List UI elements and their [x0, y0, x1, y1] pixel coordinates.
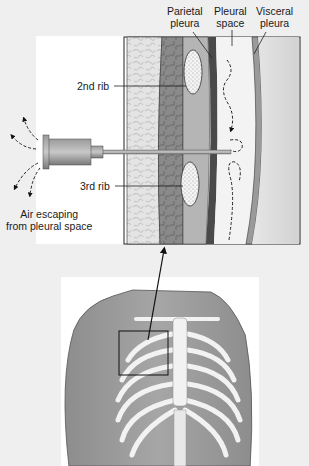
label-second-rib: 2nd rib	[77, 80, 109, 92]
label-visceral-pleura: Visceral pleura	[256, 5, 293, 29]
third-rib-bone	[181, 162, 199, 206]
second-rib-bone	[184, 50, 202, 94]
label-line: pleura	[256, 17, 293, 29]
label-line: space	[214, 17, 247, 29]
label-line: Pleural	[214, 5, 247, 17]
torso-illustration	[65, 290, 252, 466]
label-line: Air escaping	[6, 208, 92, 220]
syringe-barrel	[48, 139, 91, 165]
intercostal-muscle	[158, 37, 183, 244]
label-line: pleura	[167, 17, 203, 29]
label-pleural-space: Pleural space	[214, 5, 247, 29]
subcutaneous-fat	[127, 37, 162, 244]
syringe-flange	[43, 135, 49, 169]
label-air-escaping: Air escaping from pleural space	[6, 208, 92, 232]
pleural-space	[214, 37, 256, 244]
escaping-air-arrows	[12, 119, 40, 195]
label-parietal-pleura: Parietal pleura	[167, 5, 203, 29]
sternum	[173, 318, 187, 406]
label-third-rib: 3rd rib	[80, 180, 110, 192]
diagram-illustration	[0, 0, 309, 466]
label-line: Parietal	[167, 5, 203, 17]
label-line: Visceral	[256, 5, 293, 17]
spine	[174, 410, 186, 466]
label-line: from pleural space	[6, 220, 92, 232]
chest-wall-cross-section	[124, 37, 300, 244]
needle	[101, 150, 231, 154]
